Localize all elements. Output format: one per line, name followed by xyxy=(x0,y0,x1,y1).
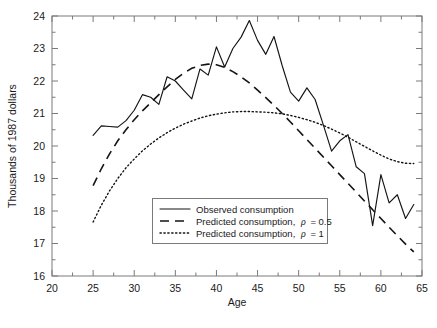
y-tick-label: 20 xyxy=(33,140,45,152)
legend-label-rho-05: Predicted consumption, ρ = 0.5 xyxy=(196,216,332,227)
x-tick-label: 40 xyxy=(211,282,223,294)
x-tick-label: 20 xyxy=(46,282,58,294)
y-tick-label: 17 xyxy=(33,237,45,249)
x-tick-label: 35 xyxy=(169,282,181,294)
legend-label-rho-1: Predicted consumption, ρ = 1 xyxy=(196,228,324,239)
series-line-observed xyxy=(93,21,414,226)
x-tick-label: 50 xyxy=(293,282,305,294)
y-tick-label: 19 xyxy=(33,172,45,184)
y-axis-title: Thousands of 1987 dollars xyxy=(6,84,18,208)
x-tick-label: 60 xyxy=(375,282,387,294)
y-tick-label: 18 xyxy=(33,205,45,217)
legend-label-observed: Observed consumption xyxy=(196,204,294,215)
x-tick-label: 45 xyxy=(252,282,264,294)
legend-rho-symbol-1: ρ xyxy=(300,228,306,239)
legend-rho-symbol-05: ρ xyxy=(300,216,306,227)
y-tick-label: 22 xyxy=(33,75,45,87)
chart-canvas: 161718192021222324 20253035404550556065 … xyxy=(0,0,437,328)
x-tick-label: 55 xyxy=(334,282,346,294)
y-axis-tick-labels: 161718192021222324 xyxy=(33,10,45,282)
y-tick-label: 24 xyxy=(33,10,45,22)
x-axis-tick-labels: 20253035404550556065 xyxy=(46,282,428,294)
chart-figure: 161718192021222324 20253035404550556065 … xyxy=(0,0,437,328)
chart-legend: Observed consumption Predicted consumpti… xyxy=(153,199,332,244)
y-tick-label: 21 xyxy=(33,107,45,119)
x-tick-label: 65 xyxy=(416,282,428,294)
x-axis-title: Age xyxy=(228,296,247,308)
x-tick-label: 30 xyxy=(128,282,140,294)
x-tick-label: 25 xyxy=(87,282,99,294)
y-tick-label: 16 xyxy=(33,270,45,282)
y-tick-label: 23 xyxy=(33,42,45,54)
